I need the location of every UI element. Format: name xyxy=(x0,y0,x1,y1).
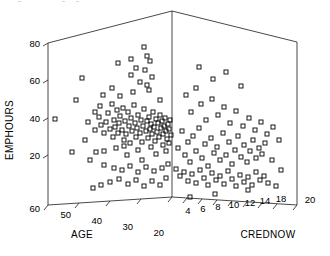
data-point xyxy=(152,169,156,173)
data-point xyxy=(138,80,142,84)
data-point xyxy=(70,150,74,154)
data-point xyxy=(191,134,195,138)
data-point xyxy=(259,120,263,124)
data-point xyxy=(158,98,162,102)
data-point xyxy=(186,179,190,183)
data-point xyxy=(238,173,242,177)
data-point xyxy=(194,86,198,90)
crednow-tick-label-6: 6 xyxy=(200,203,205,214)
data-point xyxy=(224,153,228,157)
data-point xyxy=(254,170,258,174)
data-point xyxy=(253,128,257,132)
data-point xyxy=(188,160,192,164)
plot-box-frame xyxy=(48,11,297,205)
data-point xyxy=(131,90,135,94)
age-ticks: 60 50 40 30 20 xyxy=(29,197,172,238)
crednow-tick-label-14: 14 xyxy=(260,195,271,206)
data-point xyxy=(83,138,87,142)
data-point xyxy=(168,118,172,122)
data-point xyxy=(266,181,270,185)
data-point xyxy=(80,76,84,80)
data-point xyxy=(110,102,114,106)
data-point xyxy=(118,94,122,98)
data-point xyxy=(251,138,255,142)
data-point xyxy=(277,138,281,142)
data-point xyxy=(213,192,217,196)
data-point-layer xyxy=(53,45,283,199)
data-point xyxy=(140,140,144,144)
data-point xyxy=(134,178,138,182)
data-point xyxy=(145,54,149,58)
crednow-axis-title: CREDNOW xyxy=(241,229,296,240)
data-point xyxy=(156,121,160,125)
data-point xyxy=(186,140,190,144)
data-point xyxy=(158,183,162,187)
data-point xyxy=(135,126,139,130)
data-point xyxy=(206,164,210,168)
data-point xyxy=(132,103,136,107)
data-point xyxy=(91,186,95,190)
data-point xyxy=(126,110,130,114)
data-point xyxy=(180,129,184,133)
data-point xyxy=(270,158,274,162)
data-point xyxy=(176,146,180,150)
data-point xyxy=(98,104,102,108)
age-axis-title: AGE xyxy=(71,229,93,240)
data-point xyxy=(114,146,118,150)
data-point xyxy=(166,162,170,166)
data-point xyxy=(182,170,186,174)
emphours-tick-label-80: 80 xyxy=(29,38,40,49)
data-point xyxy=(194,149,198,153)
data-point xyxy=(184,93,188,97)
data-point xyxy=(142,184,146,188)
data-point xyxy=(157,135,161,139)
crednow-tick-label-10: 10 xyxy=(229,199,240,210)
data-point xyxy=(234,184,238,188)
data-point xyxy=(279,168,283,172)
data-point xyxy=(146,136,150,140)
data-point xyxy=(160,166,164,170)
data-point xyxy=(106,111,110,115)
data-point xyxy=(164,149,168,153)
data-point xyxy=(239,155,243,159)
top-crop-artifact xyxy=(0,0,330,4)
data-point xyxy=(216,113,220,117)
data-point xyxy=(129,57,133,61)
data-point xyxy=(149,145,153,149)
age-tick-label-50: 50 xyxy=(60,209,71,220)
data-point xyxy=(147,115,151,119)
top-right-edge xyxy=(172,11,297,42)
data-point xyxy=(206,183,210,187)
data-point xyxy=(104,120,108,124)
data-point xyxy=(88,158,92,162)
top-left-edge xyxy=(48,11,172,43)
age-tick-label-40: 40 xyxy=(91,215,102,226)
emphours-tick-label-20: 20 xyxy=(29,150,40,161)
data-point xyxy=(129,116,133,120)
data-point xyxy=(271,125,275,129)
data-point xyxy=(111,135,115,139)
data-point xyxy=(265,132,269,136)
data-point xyxy=(227,140,231,144)
data-point xyxy=(222,105,226,109)
data-point xyxy=(250,183,254,187)
data-point xyxy=(101,93,105,97)
data-point xyxy=(86,120,90,124)
data-point xyxy=(174,167,178,171)
data-point xyxy=(136,113,140,117)
data-point xyxy=(155,130,159,134)
data-point xyxy=(122,144,126,148)
data-point xyxy=(145,83,149,87)
data-point xyxy=(97,115,101,119)
emphours-axis-title: EMPHOURS xyxy=(4,100,15,160)
data-point xyxy=(233,148,237,152)
data-point xyxy=(214,178,218,182)
data-point xyxy=(197,65,201,69)
emphours-ticks: 80 60 40 20 xyxy=(29,38,48,161)
data-point xyxy=(117,177,121,181)
data-point xyxy=(93,110,97,114)
data-point xyxy=(247,116,251,120)
data-point xyxy=(142,107,146,111)
data-point xyxy=(257,146,261,150)
data-point xyxy=(224,70,228,74)
